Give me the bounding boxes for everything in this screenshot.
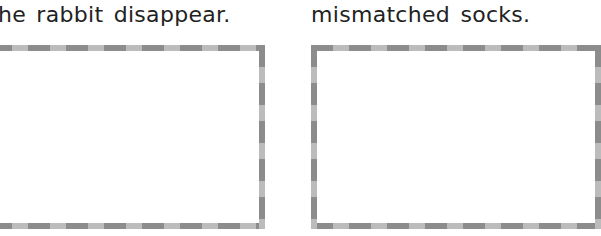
dashed-border-right <box>595 45 601 229</box>
drawing-box-left[interactable] <box>0 45 265 229</box>
panel-caption-left: he rabbit disappear. <box>0 0 231 30</box>
dashed-border-left <box>311 45 317 229</box>
dashed-border-top <box>0 45 265 51</box>
dashed-border-bottom <box>0 223 265 229</box>
panel-caption-right: mismatched socks. <box>311 0 530 30</box>
drawing-box-right[interactable] <box>311 45 601 229</box>
dashed-border-right <box>259 45 265 229</box>
dashed-border-bottom <box>311 223 601 229</box>
dashed-border-top <box>311 45 601 51</box>
